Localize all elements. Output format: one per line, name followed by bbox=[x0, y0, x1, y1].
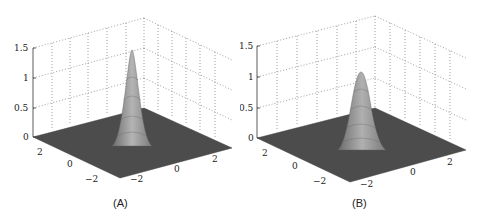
z-tick: 0.5 bbox=[14, 103, 29, 113]
caption-a: (A) bbox=[113, 197, 128, 209]
plot-canvas-b: 1.5 1 0.5 0 2 0 −2 −2 0 2 bbox=[240, 0, 480, 222]
x-tick: 2 bbox=[212, 154, 218, 164]
z-tick: 1 bbox=[248, 72, 254, 82]
y-tick: −2 bbox=[313, 176, 326, 186]
z-tick: 0 bbox=[248, 133, 254, 143]
x-tick: −2 bbox=[130, 174, 143, 184]
z-tick: 0 bbox=[23, 132, 29, 142]
x-tick: 0 bbox=[174, 164, 180, 174]
x-tick: −2 bbox=[360, 179, 373, 189]
surface-plot-a: 1.5 1 0.5 0 2 0 −2 −2 0 2 (A) bbox=[0, 0, 240, 222]
x-tick: 0 bbox=[410, 167, 416, 177]
y-tick: 0 bbox=[67, 159, 73, 169]
z-tick: 0.5 bbox=[240, 103, 254, 113]
caption-b: (B) bbox=[352, 197, 367, 209]
z-tick: 1.5 bbox=[14, 43, 29, 53]
y-tick: 2 bbox=[37, 147, 43, 157]
z-tick: 1.5 bbox=[240, 41, 254, 51]
y-tick: −2 bbox=[85, 174, 98, 184]
x-tick: 2 bbox=[447, 157, 453, 167]
surface-plot-b: 1.5 1 0.5 0 2 0 −2 −2 0 2 (B) bbox=[240, 0, 480, 222]
plot-canvas-a: 1.5 1 0.5 0 2 0 −2 −2 0 2 bbox=[0, 0, 240, 222]
z-tick: 1 bbox=[23, 73, 29, 83]
y-tick: 0 bbox=[292, 161, 298, 171]
y-tick: 2 bbox=[262, 148, 268, 158]
